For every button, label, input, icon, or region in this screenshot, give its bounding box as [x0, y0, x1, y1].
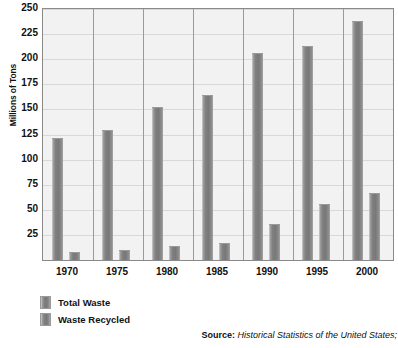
x-axis-tick-label: 1970	[42, 266, 92, 278]
panel-divider	[143, 9, 144, 260]
gridline	[43, 59, 393, 60]
legend-swatch-waste-recycled	[40, 313, 51, 326]
x-axis-tick-label: 1980	[142, 266, 192, 278]
legend-swatch-total-waste	[40, 296, 51, 309]
gridline	[43, 84, 393, 85]
bar	[52, 138, 63, 260]
gridline	[43, 34, 393, 35]
x-axis-tick-label: 2000	[342, 266, 392, 278]
chart-legend: Total Waste Waste Recycled	[40, 294, 240, 328]
x-axis-tick-label: 1990	[242, 266, 292, 278]
bar	[202, 95, 213, 260]
gridline	[43, 109, 393, 110]
x-axis-tick-label: 1975	[92, 266, 142, 278]
gridline	[43, 210, 393, 211]
y-axis-tick-label: 175	[0, 78, 38, 88]
source-text: Historical Statistics of the United Stat…	[237, 330, 397, 340]
bar	[219, 243, 230, 260]
bar	[119, 250, 130, 260]
panel-divider	[243, 9, 244, 260]
y-axis-tick-labels: 250225200175150125100755025	[0, 0, 38, 270]
source-note: Source: Historical Statistics of the Uni…	[201, 329, 397, 341]
plot-area	[42, 8, 394, 261]
bar	[302, 46, 313, 260]
gridline	[43, 135, 393, 136]
y-axis-tick-label: 75	[0, 179, 38, 189]
panel-divider	[193, 9, 194, 260]
bar	[319, 204, 330, 260]
y-axis-tick-label: 150	[0, 103, 38, 113]
x-axis-tick-label: 1995	[292, 266, 342, 278]
x-axis-tick-label: 1985	[192, 266, 242, 278]
panel-divider	[293, 9, 294, 260]
bar	[169, 246, 180, 260]
y-axis-tick-label: 200	[0, 53, 38, 63]
bar	[152, 107, 163, 260]
bar	[369, 193, 380, 260]
source-label: Source:	[201, 330, 235, 340]
y-axis-tick-label: 125	[0, 129, 38, 139]
x-axis-tick-labels: 1970197519801985199019952000	[42, 266, 394, 282]
bar	[69, 252, 80, 260]
legend-label-waste-recycled: Waste Recycled	[58, 314, 130, 325]
bar	[352, 21, 363, 260]
legend-item-waste-recycled: Waste Recycled	[40, 311, 240, 328]
bar	[102, 130, 113, 260]
gridline	[43, 9, 393, 10]
gridline	[43, 235, 393, 236]
y-axis-tick-label: 25	[0, 229, 38, 239]
bar	[252, 53, 263, 260]
y-axis-tick-label: 225	[0, 28, 38, 38]
y-axis-tick-label: 50	[0, 204, 38, 214]
gridline	[43, 185, 393, 186]
y-axis-tick-label: 100	[0, 154, 38, 164]
legend-label-total-waste: Total Waste	[58, 297, 110, 308]
legend-item-total-waste: Total Waste	[40, 294, 240, 311]
gridline	[43, 160, 393, 161]
waste-generation-bar-chart: Millions of Tons 25022520017515012510075…	[0, 0, 398, 348]
bar	[269, 224, 280, 260]
panel-divider	[93, 9, 94, 260]
y-axis-tick-label: 250	[0, 3, 38, 13]
panel-divider	[343, 9, 344, 260]
